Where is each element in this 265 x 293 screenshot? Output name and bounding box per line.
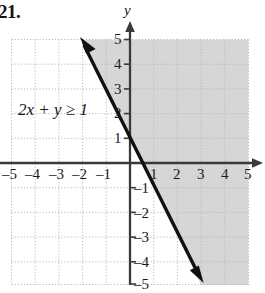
x-tick-label-3: 3	[197, 166, 205, 183]
inequality-text: 2x + y ≥ 1	[18, 100, 88, 119]
x-tick-label--3: –3	[49, 166, 64, 183]
y-tick-label-3: 3	[114, 81, 122, 98]
y-tick-label--2: –2	[134, 205, 149, 222]
x-tick-label--1: –1	[96, 166, 111, 183]
y-tick-label-4: 4	[114, 56, 122, 73]
x-tick-label--5: –5	[2, 166, 17, 183]
x-tick-label-4: 4	[221, 166, 229, 183]
x-tick-label--4: –4	[25, 166, 40, 183]
x-tick-label-1: 1	[150, 166, 158, 183]
y-tick-label-2: 2	[114, 105, 122, 122]
inequality-label: 2x + y ≥ 1	[18, 100, 88, 120]
y-tick-label--3: –3	[134, 229, 149, 246]
y-tick-label--4: –4	[134, 254, 149, 271]
x-tick-label-2: 2	[173, 166, 181, 183]
y-tick-label-5: 5	[114, 31, 122, 48]
x-tick-label-5: 5	[244, 166, 252, 183]
y-axis-label: y	[124, 2, 131, 19]
y-tick-label-1: 1	[114, 130, 122, 147]
y-tick-label--5: –5	[134, 276, 149, 293]
y-tick-label--1: –1	[134, 180, 149, 197]
x-tick-label--2: –2	[72, 166, 87, 183]
